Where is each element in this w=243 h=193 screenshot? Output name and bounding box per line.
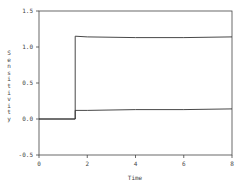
series-lines (39, 36, 232, 119)
sensitivity-chart: 1.51.00.50.0-0.5 02468 Time Sensitivity (0, 0, 243, 193)
y-axis: 1.51.00.50.0-0.5 (19, 7, 39, 158)
x-tick-label: 4 (134, 160, 138, 167)
x-tick-label: 0 (37, 160, 41, 167)
x-tick-label: 6 (182, 160, 186, 167)
svg-text:y: y (7, 115, 11, 123)
y-tick-label: 1.5 (22, 7, 33, 14)
y-axis-title: Sensitivity (7, 49, 11, 123)
y-tick-label: 1.0 (22, 43, 33, 50)
series-line-upper (39, 36, 232, 119)
series-line-lower (39, 109, 232, 119)
y-tick-label: 0.0 (22, 115, 33, 122)
y-tick-label: -0.5 (19, 151, 34, 158)
x-tick-label: 8 (230, 160, 234, 167)
x-axis-title: Time (128, 174, 143, 181)
x-axis: 02468 (37, 155, 234, 167)
x-tick-label: 2 (85, 160, 89, 167)
plot-frame (39, 11, 232, 155)
y-tick-label: 0.5 (22, 79, 33, 86)
